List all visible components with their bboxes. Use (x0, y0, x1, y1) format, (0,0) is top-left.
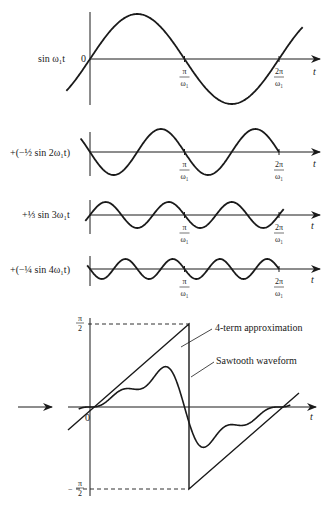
tick-label-numerator: 2π (275, 160, 283, 169)
tick-label-denominator: ω₁ (275, 79, 283, 88)
origin-label: 0 (81, 53, 86, 64)
t-axis-label: t (313, 66, 316, 77)
tick-label-denominator: ω₁ (275, 235, 283, 244)
tick-label-numerator: π (182, 277, 186, 286)
leader-line-sawtooth (191, 362, 214, 377)
svg-text:π: π (78, 479, 82, 488)
y-top-label: π 2 (76, 314, 84, 333)
panel-sum: 4-term approximation Sawtooth waveform 0… (18, 314, 316, 498)
panel-label: sin ω₁t (38, 53, 65, 64)
tick-label-denominator: ω₁ (275, 172, 283, 181)
y-bottom-label: − π 2 (68, 479, 84, 498)
svg-text:2: 2 (78, 489, 82, 498)
tick-label-denominator: ω₁ (180, 79, 188, 88)
tick-label-denominator: ω₁ (180, 172, 188, 181)
panel-harmonic-4: +(−¼ sin 4ω₁t) t (10, 256, 320, 286)
origin-label: 0 (85, 412, 90, 423)
panel-label: +⅓ sin 3ω₁t (22, 209, 70, 220)
tick-label-numerator: π (182, 67, 186, 76)
leader-line-approx (181, 329, 212, 347)
annotation-4-term-approximation: 4-term approximation (215, 322, 302, 333)
tick-label-numerator: 2π (275, 277, 283, 286)
tick-label-numerator: 2π (275, 67, 283, 76)
tick-label-numerator: 2π (275, 223, 283, 232)
tick-label-denominator: ω₁ (180, 289, 188, 298)
t-axis-label: t (311, 220, 314, 231)
t-axis-label: t (313, 158, 316, 169)
svg-text:−: − (68, 485, 73, 494)
panel-label: +(−½ sin 2ω₁t) (10, 147, 70, 159)
panel-harmonic-2: +(−½ sin 2ω₁t) t (10, 129, 320, 176)
tick-labels: πω₁2πω₁πω₁2πω₁πω₁2πω₁πω₁2πω₁ (180, 56, 285, 298)
tick-label-denominator: ω₁ (275, 289, 283, 298)
fourier-sawtooth-diagram: sin ω₁t 0 t +(−½ sin 2ω₁t) t +⅓ sin 3ω₁t… (0, 0, 330, 511)
tick-label-numerator: π (182, 223, 186, 232)
tick-label-numerator: π (182, 160, 186, 169)
svg-text:2: 2 (78, 324, 82, 333)
panel-label: +(−¼ sin 4ω₁t) (10, 264, 70, 276)
tick-label-denominator: ω₁ (180, 235, 188, 244)
t-axis-label: t (310, 411, 313, 422)
annotation-sawtooth-waveform: Sawtooth waveform (216, 355, 297, 366)
svg-text:π: π (78, 314, 82, 323)
t-axis-label: t (311, 274, 314, 285)
panel-harmonic-1: sin ω₁t 0 t (38, 12, 320, 105)
